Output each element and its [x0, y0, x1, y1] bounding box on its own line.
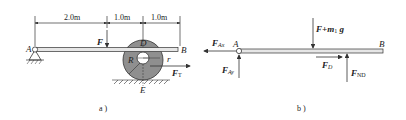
label-FD: FD: [321, 60, 333, 70]
label-R: R: [127, 55, 134, 65]
ground-hatch-disk: [112, 80, 170, 84]
beam-a: [35, 48, 178, 52]
label-A: A: [25, 44, 32, 54]
figure-a: 2.0m 1.0m 1.0m: [25, 13, 190, 113]
caption-a: a ): [99, 104, 108, 113]
caption-b: b ): [297, 104, 306, 113]
label-FT: FT: [171, 68, 182, 78]
label-r: r: [167, 54, 171, 64]
label-A-b: A: [232, 39, 239, 49]
beam-b: [240, 49, 383, 53]
dimension-label-1: 2.0m: [64, 13, 81, 22]
label-FAy: FAy: [221, 65, 234, 75]
label-B-b: B: [379, 39, 385, 49]
dimension-label-2: 1.0m: [114, 13, 131, 22]
label-E: E: [139, 85, 146, 95]
label-F: F: [96, 37, 103, 47]
pin-A-b: [236, 48, 241, 53]
label-FND: FND: [350, 68, 366, 78]
label-FAx: FAx: [211, 38, 225, 48]
label-load: F+m1 g: [315, 24, 344, 34]
figure-b: A B FAx FAy F+m1 g FD FND b ): [204, 18, 385, 113]
label-B: B: [181, 45, 187, 55]
dimension-label-3: 1.0m: [151, 13, 168, 22]
label-D: D: [139, 38, 147, 48]
diagram-canvas: 2.0m 1.0m 1.0m: [0, 0, 406, 120]
